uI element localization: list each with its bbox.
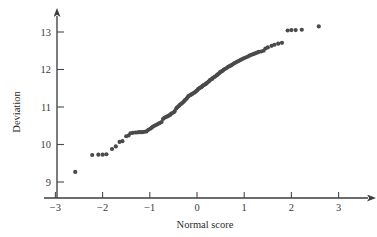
x-tick-label: 3 — [336, 202, 341, 213]
data-point — [289, 28, 293, 32]
data-point — [114, 144, 118, 148]
y-tick-label: 13 — [41, 27, 52, 38]
data-point — [286, 28, 290, 32]
x-tick-label: −2 — [97, 202, 108, 213]
y-tick-label: 10 — [41, 139, 52, 150]
data-point — [96, 153, 100, 157]
data-point — [280, 41, 284, 45]
x-axis-ticks: −3−2−10123 — [50, 192, 341, 213]
data-point — [317, 24, 321, 28]
data-point — [266, 45, 270, 49]
y-tick-label: 9 — [46, 177, 51, 188]
y-axis: 910111213 Deviation — [11, 16, 64, 198]
y-axis-label: Deviation — [11, 91, 22, 133]
x-tick-label: 0 — [194, 202, 199, 213]
y-tick-label: 12 — [41, 64, 52, 75]
data-point — [272, 43, 276, 47]
data-point — [73, 170, 77, 174]
x-tick-label: −1 — [144, 202, 155, 213]
data-point — [110, 147, 114, 151]
x-tick-label: 1 — [242, 202, 247, 213]
y-axis-ticks: 910111213 — [41, 27, 65, 188]
chart-canvas: −3−2−10123 Normal score 910111213 Deviat… — [0, 0, 377, 237]
data-point — [120, 139, 124, 143]
data-points — [73, 24, 321, 174]
data-point — [300, 28, 304, 32]
x-axis-label: Normal score — [177, 219, 234, 230]
data-point — [294, 28, 298, 32]
x-axis: −3−2−10123 Normal score — [44, 192, 368, 230]
data-point — [276, 42, 280, 46]
x-tick-label: −3 — [50, 202, 61, 213]
x-tick-label: 2 — [289, 202, 294, 213]
data-point — [104, 152, 108, 156]
data-point — [101, 153, 105, 157]
data-point — [90, 153, 94, 157]
normal-probability-plot: −3−2−10123 Normal score 910111213 Deviat… — [0, 0, 377, 237]
y-tick-label: 11 — [41, 102, 51, 113]
